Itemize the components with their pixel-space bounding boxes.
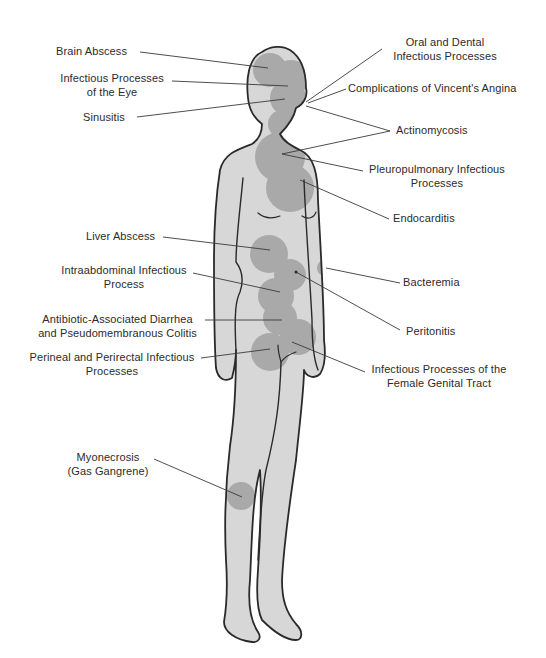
label-endocarditis: Endocarditis (393, 212, 455, 226)
label-diarrhea: Antibiotic-Associated Diarrhea and Pseud… (30, 313, 205, 340)
label-pleuropulmonary: Pleuropulmonary Infectious Processes (362, 163, 512, 190)
label-intraabdominal: Intraabdominal Infectious Process (55, 264, 193, 291)
leader-bacteremia (326, 268, 400, 283)
heart-site (266, 164, 314, 212)
label-actinomycosis: Actinomycosis (396, 124, 468, 138)
leader-actino-1 (306, 106, 390, 131)
label-sinusitis: Sinusitis (83, 111, 125, 125)
label-myonecrosis: Myonecrosis (Gas Gangrene) (62, 451, 154, 478)
label-perineal: Perineal and Perirectal Infectious Proce… (22, 351, 202, 378)
leader-vincent (308, 89, 346, 103)
label-vincent: Complications of Vincent's Angina (348, 82, 516, 96)
label-female-genital: Infectious Processes of the Female Genit… (364, 363, 514, 390)
bacteremia-site (317, 260, 333, 276)
perineal-site (251, 333, 289, 371)
label-liver-abscess: Liver Abscess (86, 230, 155, 244)
label-oral-dental: Oral and Dental Infectious Processes (376, 36, 514, 63)
leader-actino-2 (282, 131, 390, 154)
label-eye: Infectious Processes of the Eye (52, 72, 172, 99)
leader-brain-abscess (140, 52, 268, 68)
label-brain-abscess: Brain Abscess (56, 45, 127, 59)
myonecrosis-site (227, 482, 255, 510)
label-peritonitis: Peritonitis (406, 325, 455, 339)
label-bacteremia: Bacteremia (403, 276, 460, 290)
